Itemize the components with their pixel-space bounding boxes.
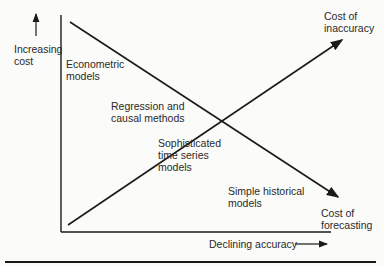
method-label-line: Econometric (66, 58, 124, 70)
method-label-line: Sophisticated (158, 137, 221, 149)
simple-historical-label: Simple historical models (228, 185, 304, 209)
method-label-line: models (158, 161, 221, 173)
curve-label-line: Cost of (324, 10, 374, 22)
y-axis-label: Increasing cost (14, 43, 62, 67)
method-label-line: models (228, 197, 304, 209)
sophisticated-time-series-label: Sophisticated time series models (158, 137, 221, 173)
cost-of-forecasting-label: Cost of forecasting (321, 207, 372, 231)
curve-label-line: forecasting (321, 219, 372, 231)
method-label-line: time series (158, 149, 221, 161)
cost-of-inaccuracy-label: Cost of inaccuracy (324, 10, 374, 34)
curve-label-line: Cost of (321, 207, 372, 219)
regression-causal-label: Regression and causal methods (111, 100, 185, 124)
curve-label-line: inaccuracy (324, 22, 374, 34)
y-axis-label-line1: Increasing (14, 43, 62, 55)
method-label-line: Regression and (111, 100, 185, 112)
y-axis-label-line2: cost (14, 55, 62, 67)
method-label-line: models (66, 70, 124, 82)
method-label-line: Simple historical (228, 185, 304, 197)
econometric-models-label: Econometric models (66, 58, 124, 82)
x-axis-label: Declining accuracy (209, 238, 297, 250)
method-label-line: causal methods (111, 112, 185, 124)
